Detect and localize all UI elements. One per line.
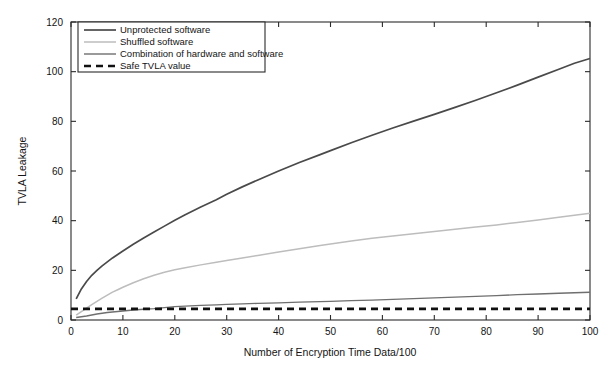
y-tick-label: 120: [46, 17, 63, 28]
y-tick-label: 80: [52, 116, 64, 127]
legend-label: Safe TVLA value: [120, 60, 191, 71]
x-tick-label: 20: [169, 326, 181, 337]
y-tick-label: 60: [52, 166, 64, 177]
x-tick-label: 0: [68, 326, 74, 337]
x-tick-label: 100: [582, 326, 599, 337]
x-tick-label: 80: [481, 326, 493, 337]
legend-label: Combination of hardware and software: [120, 48, 283, 59]
legend-label: Unprotected software: [120, 24, 210, 35]
y-tick-label: 0: [57, 315, 63, 326]
y-tick-label: 20: [52, 265, 64, 276]
tvla-leakage-line-chart: 0102030405060708090100020406080100120 Nu…: [0, 0, 616, 368]
y-tick-label: 100: [46, 66, 63, 77]
chart-figure: 0102030405060708090100020406080100120 Nu…: [0, 0, 616, 368]
legend: Unprotected softwareShuffled softwareCom…: [78, 22, 283, 72]
x-tick-label: 30: [221, 326, 233, 337]
x-axis-label: Number of Encryption Time Data/100: [244, 346, 417, 358]
y-axis-label: TVLA Leakage: [16, 136, 28, 205]
x-tick-label: 90: [533, 326, 545, 337]
x-tick-label: 70: [429, 326, 441, 337]
x-tick-label: 60: [377, 326, 389, 337]
y-tick-label: 40: [52, 215, 64, 226]
x-tick-label: 40: [273, 326, 285, 337]
legend-label: Shuffled software: [120, 36, 193, 47]
x-tick-label: 50: [325, 326, 337, 337]
x-tick-label: 10: [117, 326, 129, 337]
